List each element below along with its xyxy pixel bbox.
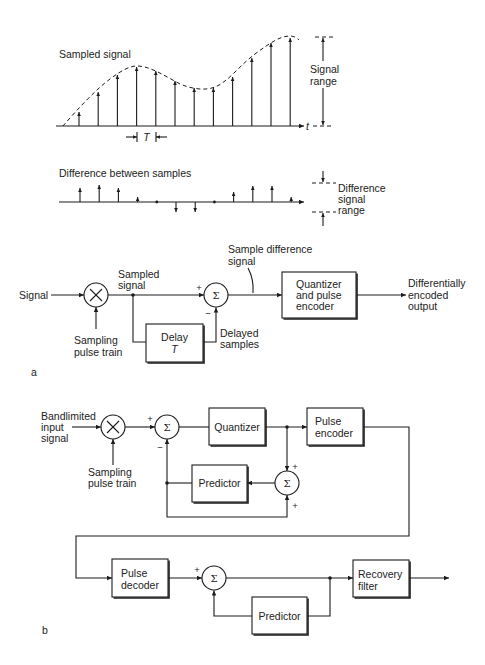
period-marker: T xyxy=(126,131,167,143)
decoder-label-line1: Pulse xyxy=(121,567,147,579)
decoder-predictor-block: Predictor xyxy=(252,597,308,635)
sigma-icon: Σ xyxy=(283,478,290,489)
sampled-signal-title: Sampled signal xyxy=(59,48,131,60)
panel-b-label: b xyxy=(42,624,48,636)
difference-label-line1: Sample difference xyxy=(228,243,313,255)
minus-sign: − xyxy=(205,308,211,319)
filter-label-line2: filter xyxy=(358,580,378,592)
sigma-icon: Σ xyxy=(163,422,170,433)
multiplier xyxy=(84,283,108,307)
difference-title: Difference between samples xyxy=(59,167,191,179)
sampled-waveform-plot: Sampled signal t T Signal range xyxy=(56,36,339,143)
minus-sign: − xyxy=(157,442,163,453)
plus-sign-top: + xyxy=(292,461,298,472)
input-summer: Σ + − xyxy=(147,413,179,453)
delayed-label-line2: samples xyxy=(220,338,259,350)
time-axis-label: t xyxy=(306,120,310,132)
encoder-predictor-block: Predictor xyxy=(192,465,248,503)
diff-range-label-line3: range xyxy=(338,204,365,216)
plus-sign: + xyxy=(194,564,200,575)
period-label: T xyxy=(143,131,151,143)
recovery-filter-block: Recovery filter xyxy=(353,560,410,598)
encoder-label-line2: encoder xyxy=(315,427,353,439)
panel-b-encoder: Bandlimited input signal Sampling pulse … xyxy=(41,408,409,578)
multiplier xyxy=(101,415,125,439)
output-label-line3: output xyxy=(408,300,437,312)
panel-b-decoder: Pulse decoder Σ + Recovery filter Predic… xyxy=(42,559,449,636)
pulse-encoder-block: Pulse encoder xyxy=(307,408,364,446)
decoder-summer: Σ + xyxy=(194,564,226,591)
difference-range-marker: Difference signal range xyxy=(312,171,386,226)
panel-a-block-diagram: Signal Sampling pulse train Sampled sign… xyxy=(19,243,466,378)
sigma-icon: Σ xyxy=(212,290,219,301)
signal-range-label-line1: Signal xyxy=(310,63,339,75)
prediction-to-summer-line xyxy=(214,591,252,617)
pulse-decoder-block: Pulse decoder xyxy=(112,559,169,598)
zero-sample-dot xyxy=(213,201,216,204)
sampled-label-line2: signal xyxy=(118,279,145,291)
plus-sign: + xyxy=(196,282,202,293)
delay-block: Delay T xyxy=(146,324,204,363)
quantizer-encoder-block: Quantizer and pulse encoder xyxy=(282,272,357,319)
delay-input-line xyxy=(133,295,146,342)
dpcm-figure: Sampled signal t T Signal range Differen… xyxy=(0,0,485,665)
leader-line xyxy=(248,268,253,293)
input-signal-label: Signal xyxy=(19,289,48,301)
delay-label: Delay xyxy=(161,331,189,343)
sampling-label-line2: pulse train xyxy=(88,477,137,489)
summer: Σ + − xyxy=(196,282,228,319)
difference-stems xyxy=(80,185,291,212)
predictor-label: Predictor xyxy=(258,610,301,622)
predictor-label: Predictor xyxy=(198,477,241,489)
quantizer-block: Quantizer xyxy=(209,408,266,446)
sigma-icon: Σ xyxy=(210,573,217,584)
plus-sign-bottom: + xyxy=(292,500,298,511)
block-label-line3: encoder xyxy=(296,300,334,312)
difference-waveform-plot: Difference between samples Difference si… xyxy=(59,167,386,226)
zero-sample-dot xyxy=(155,201,158,204)
signal-range-label-line2: range xyxy=(310,75,337,87)
decoder-label-line2: decoder xyxy=(121,579,159,591)
panel-a-label: a xyxy=(31,366,37,378)
encoder-label-line1: Pulse xyxy=(315,415,341,427)
predictor-input-line xyxy=(307,578,330,616)
plus-sign: + xyxy=(147,413,153,424)
sampling-label-line2: pulse train xyxy=(74,346,123,358)
difference-label-line2: signal xyxy=(228,255,255,267)
quantizer-label: Quantizer xyxy=(214,421,260,433)
input-label-line3: signal xyxy=(41,432,68,444)
sampling-label-line1: Sampling xyxy=(74,334,118,346)
signal-range-marker: Signal range xyxy=(310,37,339,126)
output-label-line1: Differentially xyxy=(408,277,466,289)
filter-label-line1: Recovery xyxy=(358,568,403,580)
